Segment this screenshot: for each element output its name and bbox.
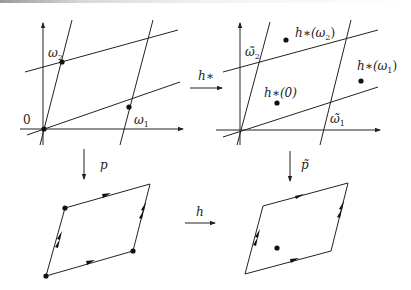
h-label: h <box>196 205 204 219</box>
bottom-right-edge-arrows <box>253 194 344 263</box>
h-star-label: h∗ <box>198 69 214 83</box>
edge-arrow-icon <box>290 258 299 263</box>
lattice-line <box>237 22 270 145</box>
h-omega2-label: h∗(ω2) <box>295 26 335 42</box>
origin-point <box>41 126 46 131</box>
h-zero-point <box>274 100 279 105</box>
marked-point <box>274 245 279 250</box>
h-omega2-point <box>283 37 288 42</box>
h-zero-label: h∗(0) <box>264 86 297 100</box>
omega1-point <box>126 104 131 109</box>
p-tilde-label: p̃ <box>301 158 309 172</box>
edge-arrow-icon <box>295 194 304 199</box>
edge-arrow-icon <box>337 209 342 218</box>
h-omega1-label: h∗(ω1) <box>357 59 397 75</box>
vertex-point <box>130 248 135 253</box>
bottom-left-parallelogram <box>46 184 150 276</box>
edge-arrow-icon <box>339 201 344 210</box>
origin-label: 0 <box>23 113 31 127</box>
diagram-canvas: 0 ω2 ω1 h∗ ω̃2 ω̃1 h∗(ω2) h∗(ω1) h∗(0) p… <box>0 0 411 290</box>
bottom-left-vertices <box>43 205 135 278</box>
edge-arrow-icon <box>141 202 146 211</box>
p-label: p <box>100 158 108 172</box>
omega2-tilde-label: ω̃2 <box>245 45 260 61</box>
top-left-points <box>41 59 131 131</box>
h-omega1-point <box>358 78 363 83</box>
omega1-label: ω1 <box>134 113 149 129</box>
top-left-lattice <box>20 20 183 145</box>
edge-arrow-icon <box>139 210 144 219</box>
lattice-line <box>27 82 180 135</box>
bottom-left-edge-arrows <box>55 193 146 265</box>
lattice-line <box>40 20 72 145</box>
omega2-label: ω2 <box>48 46 63 62</box>
vertex-point <box>62 205 67 210</box>
vertex-point <box>43 273 48 278</box>
omega1-tilde-label: ω̃1 <box>330 112 345 128</box>
